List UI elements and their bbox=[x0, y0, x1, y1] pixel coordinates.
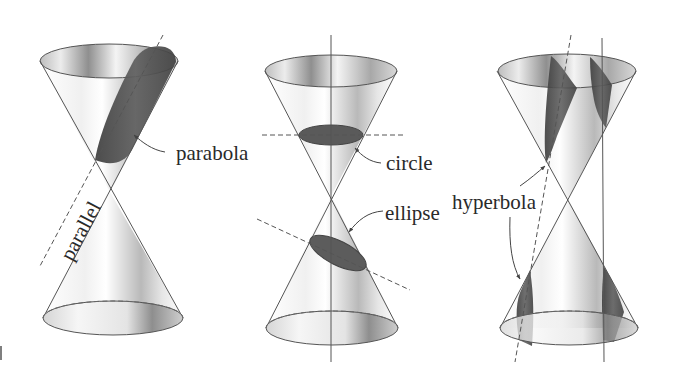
parabola-label: parabola bbox=[176, 141, 249, 165]
circle-ellipse-panel: circle ellipse bbox=[257, 35, 440, 362]
hyperbola-label: hyperbola bbox=[452, 190, 537, 214]
ellipse-label: ellipse bbox=[385, 201, 440, 225]
conic-sections-figure: parallel parabola circle ellipse bbox=[0, 0, 674, 374]
hyperbola-leader-lower bbox=[510, 217, 520, 279]
parabola-panel: parallel parabola bbox=[40, 35, 249, 335]
hyperbola-leader-upper bbox=[520, 166, 545, 186]
parabola-leader bbox=[134, 135, 165, 152]
ellipse-leader bbox=[349, 211, 383, 232]
hyperbola-panel: hyperbola bbox=[452, 35, 638, 362]
circle-leader bbox=[355, 148, 381, 163]
circle-label: circle bbox=[386, 151, 433, 175]
